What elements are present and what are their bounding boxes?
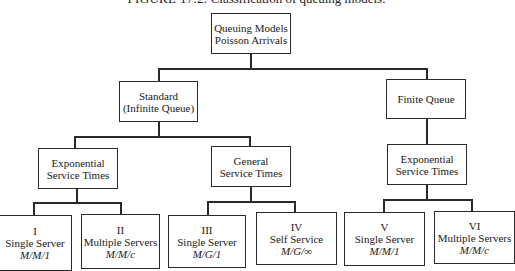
model-label: Single Server xyxy=(177,236,237,248)
figure-caption: FIGURE 17.2. Classification of queuing m… xyxy=(0,0,513,7)
model-label: Multiple Servers xyxy=(84,236,158,248)
connector-to-exp-left xyxy=(74,136,76,148)
connector-to-general xyxy=(249,136,251,146)
connector-exp-right-down xyxy=(426,184,428,200)
connector-exp-right-bar xyxy=(383,199,473,201)
node-label-line1: Standard xyxy=(139,90,178,102)
model-numeral: II xyxy=(117,224,124,236)
connector-to-finite xyxy=(426,68,428,79)
connector-to-standard xyxy=(158,68,160,81)
figure-title: Classification of queuing models. xyxy=(211,0,386,6)
node-label-line1: General xyxy=(234,155,269,167)
node-model-6: VI Multiple Servers M/M/c xyxy=(434,211,515,264)
connector-to-model-2 xyxy=(120,202,122,214)
connector-level1-bar xyxy=(158,68,428,70)
connector-exp-left-down xyxy=(76,188,78,203)
node-label-line1: Finite Queue xyxy=(397,93,454,105)
model-notation: M/G/∞ xyxy=(281,245,312,257)
model-notation: M/M/c xyxy=(460,244,489,256)
node-label-line2: (Infinite Queue) xyxy=(123,102,194,114)
node-model-4: IV Self Service M/G/∞ xyxy=(256,212,337,265)
model-numeral: I xyxy=(33,225,37,237)
node-queuing-models: Queuing Models Poisson Arrivals xyxy=(211,13,291,54)
node-model-2: II Multiple Servers M/M/c xyxy=(81,214,160,269)
model-label: Self Service xyxy=(270,233,323,245)
connector-to-model-3 xyxy=(207,201,209,215)
connector-finite-down xyxy=(426,118,428,144)
node-standard-infinite-queue: Standard (Infinite Queue) xyxy=(119,81,198,122)
connector-general-down xyxy=(250,186,252,202)
connector-exp-left-bar xyxy=(33,202,122,204)
model-notation: M/G/1 xyxy=(193,248,222,260)
connector-standard-bar xyxy=(74,136,250,138)
connector-root-down xyxy=(250,53,252,69)
connector-standard-down xyxy=(158,121,160,137)
model-numeral: III xyxy=(202,224,213,236)
node-label-line1: Exponential xyxy=(400,153,453,165)
model-label: Single Server xyxy=(355,233,415,245)
node-label-line2: Service Times xyxy=(396,165,459,177)
connector-to-model-1 xyxy=(33,202,35,215)
model-notation: M/M/1 xyxy=(370,245,400,257)
connector-to-model-6 xyxy=(471,199,473,211)
node-label-line2: Service Times xyxy=(220,167,283,179)
node-label-line2: Service Times xyxy=(47,169,110,181)
figure-number: FIGURE 17.2. xyxy=(128,0,208,6)
node-model-5: V Single Server M/M/1 xyxy=(344,212,425,266)
node-finite-queue: Finite Queue xyxy=(386,79,466,119)
model-label: Single Server xyxy=(5,237,65,249)
node-label-line2: Poisson Arrivals xyxy=(215,34,287,46)
connector-to-model-5 xyxy=(383,199,385,212)
node-model-1: I Single Server M/M/1 xyxy=(0,215,72,271)
node-model-3: III Single Server M/G/1 xyxy=(168,215,246,268)
node-general-service: General Service Times xyxy=(211,146,291,187)
model-notation: M/M/1 xyxy=(20,249,50,261)
model-notation: M/M/c xyxy=(106,248,135,260)
model-numeral: V xyxy=(381,221,389,233)
node-exponential-service-right: Exponential Service Times xyxy=(387,144,467,185)
connector-to-model-4 xyxy=(294,201,296,212)
node-label-line1: Exponential xyxy=(51,157,104,169)
model-numeral: VI xyxy=(469,220,481,232)
model-numeral: IV xyxy=(291,221,303,233)
model-label: Multiple Servers xyxy=(438,232,512,244)
node-exponential-service-left: Exponential Service Times xyxy=(38,148,118,189)
node-label-line1: Queuing Models xyxy=(214,22,288,34)
connector-general-bar xyxy=(207,201,296,203)
